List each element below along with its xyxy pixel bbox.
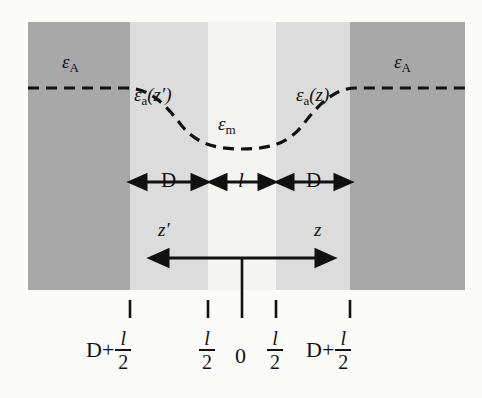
fraction-l-over-2: l 2 — [267, 328, 283, 373]
label-epsilon-a-z: εa(z) — [296, 85, 329, 107]
dimension-label-l: l — [238, 170, 244, 191]
tick-label-left-inner: l 2 — [198, 328, 216, 373]
axis-ticks — [130, 300, 350, 318]
dimension-label-D-right: D — [306, 170, 321, 191]
fraction-l-over-2: l 2 — [199, 328, 215, 373]
fraction-l-over-2: l 2 — [115, 328, 131, 373]
tick-label-right-inner: l 2 — [266, 328, 284, 373]
tick-label-right-outer: D+ l 2 — [306, 328, 352, 373]
band-right-layer — [276, 22, 350, 290]
label-epsilon-m: εm — [218, 114, 236, 136]
label-epsilon-a-z-prime: εa(z′) — [134, 85, 172, 107]
tick-label-left-outer: D+ l 2 — [86, 328, 132, 373]
band-center-gap — [208, 22, 276, 290]
dimension-label-D-left: D — [161, 170, 176, 191]
dielectric-slab-geometry-figure: εA εA εa(z′) εa(z) εm D l D z′ z D+ l 2 … — [0, 0, 482, 398]
fraction-l-over-2: l 2 — [335, 328, 351, 373]
label-epsilon-A-left: εA — [62, 52, 79, 74]
label-epsilon-A-right: εA — [394, 52, 411, 74]
band-left-bulk — [28, 22, 130, 290]
axis-label-z-prime: z′ — [158, 220, 170, 239]
axis-label-z: z — [314, 220, 321, 239]
tick-label-origin: 0 — [235, 345, 246, 367]
